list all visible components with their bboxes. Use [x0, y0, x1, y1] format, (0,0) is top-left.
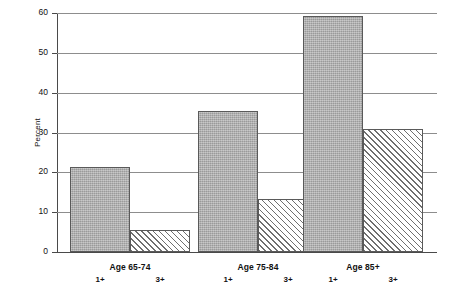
- y-tick-label-10: 10: [22, 207, 48, 216]
- x-sub-label-1-1plus: 1+: [70, 275, 130, 284]
- x-sub-label-2-1plus: 1+: [198, 275, 258, 284]
- gridline-60: [57, 13, 437, 14]
- y-tick-10: 10: [0, 207, 48, 217]
- y-tick-label-40: 40: [22, 88, 48, 97]
- x-group-label-3: Age 85+: [303, 262, 423, 272]
- gridline-0: [57, 252, 437, 253]
- y-tick-0: 0: [0, 247, 48, 257]
- y-tick-60: 60: [0, 8, 48, 18]
- y-tick-label-30: 30: [22, 128, 48, 137]
- x-sub-label-1-3plus: 3+: [130, 275, 190, 284]
- y-tick-label-0: 0: [22, 247, 48, 256]
- y-tick-label-60: 60: [22, 8, 48, 17]
- y-tick-label-20: 20: [22, 167, 48, 176]
- y-tick-label-50: 50: [22, 48, 48, 57]
- y-tick-50: 50: [0, 48, 48, 58]
- bar-age-85--1plus: [303, 16, 363, 252]
- y-tick-20: 20: [0, 167, 48, 177]
- x-group-label-2: Age 75-84: [198, 262, 318, 272]
- x-sub-label-3-3plus: 3+: [363, 275, 423, 284]
- gridline-50: [57, 53, 437, 54]
- bar-chart: Percent 0102030405060 Age 65-741+3+Age 7…: [0, 0, 452, 293]
- x-sub-label-3-1plus: 1+: [303, 275, 363, 284]
- x-group-label-1: Age 65-74: [70, 262, 190, 272]
- bar-age-85--3plus: [363, 129, 423, 252]
- y-tick-30: 30: [0, 128, 48, 138]
- bar-age-65-74-1plus: [70, 167, 130, 252]
- bar-age-65-74-3plus: [130, 230, 190, 252]
- y-tick-40: 40: [0, 88, 48, 98]
- gridline-40: [57, 93, 437, 94]
- plot-area: [57, 13, 437, 252]
- bar-age-75-84-1plus: [198, 111, 258, 252]
